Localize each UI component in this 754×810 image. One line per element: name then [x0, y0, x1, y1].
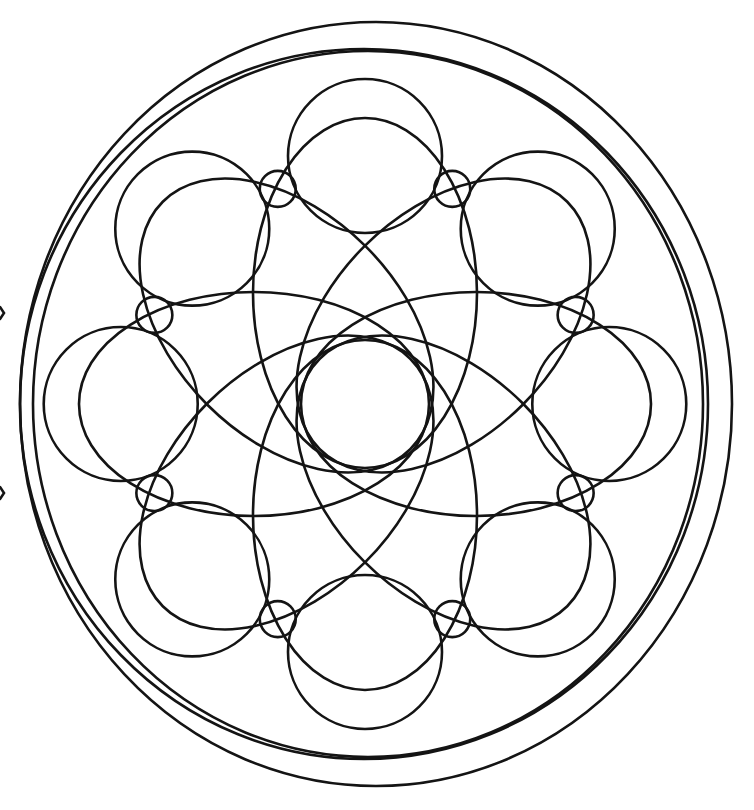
edge-notch	[0, 307, 4, 319]
large-circle	[461, 502, 615, 656]
petal-ellipses	[79, 118, 651, 690]
outer-ring	[20, 22, 732, 786]
petal-ellipse	[84, 280, 490, 686]
inner-ring	[33, 51, 703, 757]
edge-notches	[0, 307, 4, 499]
petal-ellipse	[241, 280, 647, 686]
large-circles	[44, 79, 687, 729]
petal-ellipse	[241, 123, 647, 529]
large-circle	[115, 152, 269, 306]
petal-ellipse	[84, 123, 490, 529]
outer-rings	[20, 22, 732, 786]
large-circle	[288, 79, 442, 233]
large-circle	[288, 575, 442, 729]
large-circle	[44, 327, 198, 481]
large-circle	[461, 152, 615, 306]
large-circle	[532, 327, 686, 481]
mandala-drawing	[0, 0, 754, 810]
large-circle	[115, 502, 269, 656]
mandala-canvas	[0, 0, 754, 810]
edge-notch	[0, 487, 4, 499]
